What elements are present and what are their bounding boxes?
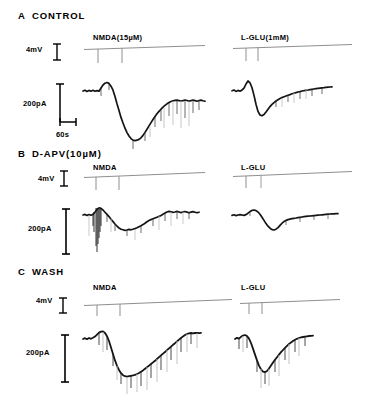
panel-b-col0-voltage-trace — [84, 173, 205, 191]
panel-a-voltage-scalebar — [53, 44, 61, 60]
panel-c-current-scalebar — [61, 335, 69, 382]
panel-a-time-scalebar — [60, 118, 76, 126]
figure-root: ACONTROL NMDA(15µM) L-GLU(1mM) 4mV 200pA… — [0, 0, 371, 400]
panel-a-col0-current-trace — [83, 83, 205, 150]
panel-a-current-scalebar — [56, 84, 64, 122]
panel-a-col0-voltage-trace — [84, 46, 205, 64]
panel-a-col1-current-trace — [232, 81, 332, 116]
panel-b-col0-current-trace — [83, 208, 199, 252]
panel-a-col1-voltage-trace — [233, 45, 352, 62]
panel-c-col0-voltage-trace — [84, 300, 232, 317]
panel-c-col0-current-trace — [83, 331, 201, 394]
panel-c-col1-voltage-trace — [240, 300, 340, 315]
panel-b-col1-current-trace — [232, 210, 338, 230]
panel-c-col1-current-trace — [235, 335, 313, 388]
panel-c-voltage-scalebar — [59, 298, 67, 313]
traces-canvas — [0, 0, 371, 400]
panel-b-col1-voltage-trace — [233, 172, 352, 189]
panel-b-current-scalebar — [62, 209, 70, 254]
panel-b-voltage-scalebar — [60, 171, 68, 186]
